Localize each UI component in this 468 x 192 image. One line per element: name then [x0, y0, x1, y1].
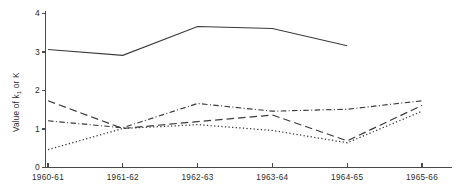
- x-tick-label: 1960-61: [32, 173, 64, 182]
- line-chart: Value of k1 or K 01234 1960-611961-62196…: [0, 0, 468, 192]
- x-tick-label: 1961-62: [107, 173, 139, 182]
- x-tick-label: 1962-63: [182, 173, 214, 182]
- x-axis-ticks: 1960-611961-621962-631963-641964-651965-…: [32, 163, 438, 182]
- y-tick-label: 3: [35, 47, 40, 57]
- y-axis-title-main: Value of k: [12, 93, 21, 132]
- series-dashed: [48, 101, 422, 141]
- chart-canvas: Value of k1 or K 01234 1960-611961-62196…: [0, 0, 468, 192]
- y-axis-title: Value of k1 or K: [12, 72, 22, 132]
- y-tick-label: 4: [35, 8, 40, 18]
- x-tick-label: 1964-65: [331, 173, 363, 182]
- series-dotted: [48, 111, 422, 149]
- y-tick-label: 2: [35, 85, 40, 95]
- data-series-layer: [48, 26, 422, 149]
- y-tick-label: 0: [35, 162, 40, 172]
- y-axis-title-tail: or K: [12, 72, 21, 91]
- series-solid: [48, 26, 347, 55]
- y-tick-label: 1: [35, 124, 40, 134]
- y-axis-title-text: Value of k1 or K: [12, 72, 22, 132]
- x-tick-label: 1963-64: [256, 173, 288, 182]
- y-axis-ticks: 01234: [35, 8, 45, 172]
- series-dash-dot: [48, 101, 422, 128]
- x-tick-label: 1965-66: [406, 173, 438, 182]
